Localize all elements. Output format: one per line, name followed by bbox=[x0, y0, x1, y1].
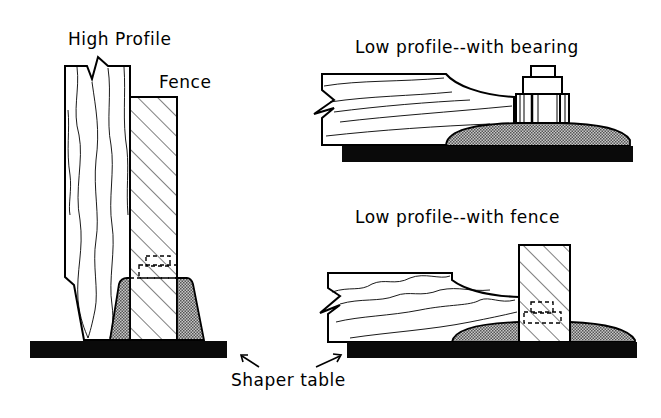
high-profile-panel: High Profile Fence bbox=[30, 29, 227, 358]
nut bbox=[523, 77, 562, 94]
low-profile-fence-panel: Low profile--with fence bbox=[320, 207, 637, 358]
fence-block-low bbox=[519, 245, 570, 342]
low-fence-label: Low profile--with fence bbox=[355, 207, 560, 227]
cutter-right bbox=[177, 278, 204, 340]
shaper-table-label: Shaper table bbox=[231, 370, 346, 390]
shaper-table-fence bbox=[347, 342, 637, 358]
fence-label: Fence bbox=[159, 72, 211, 92]
shaper-table-callout: Shaper table bbox=[231, 354, 346, 390]
shaper-diagram: High Profile Fence Low profile--with bea… bbox=[0, 0, 661, 418]
nut-top bbox=[531, 66, 555, 77]
low-bearing-label: Low profile--with bearing bbox=[355, 37, 579, 57]
shaper-table-high bbox=[30, 341, 227, 358]
arrow-left bbox=[242, 356, 259, 367]
shaper-table-bearing bbox=[342, 146, 633, 162]
high-profile-label: High Profile bbox=[68, 29, 171, 49]
cutter-bearing bbox=[446, 123, 630, 146]
low-profile-bearing-panel: Low profile--with bearing bbox=[314, 37, 633, 162]
fence-block bbox=[130, 97, 177, 340]
